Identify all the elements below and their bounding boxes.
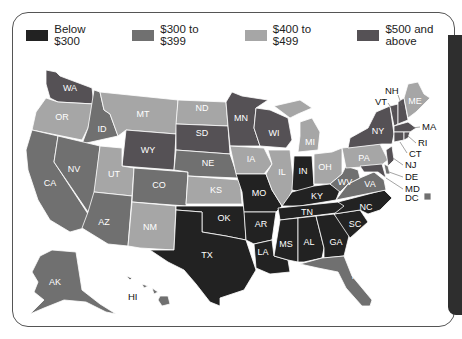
- svg-text:AR: AR: [255, 219, 268, 229]
- us-map: WA OR CA ID NV MT WY UT AZ CO NM ND SD N…: [0, 0, 462, 339]
- svg-text:KY: KY: [311, 191, 323, 201]
- svg-text:NY: NY: [372, 126, 385, 136]
- svg-text:CT: CT: [409, 148, 422, 159]
- svg-text:AL: AL: [303, 237, 314, 247]
- svg-text:MA: MA: [422, 121, 437, 132]
- svg-text:HI: HI: [128, 291, 138, 302]
- svg-text:TN: TN: [301, 207, 313, 217]
- state-ak[interactable]: [30, 250, 116, 314]
- svg-text:SC: SC: [349, 219, 362, 229]
- svg-text:UT: UT: [108, 169, 120, 179]
- svg-text:IA: IA: [247, 154, 256, 164]
- state-ct[interactable]: [394, 132, 404, 142]
- svg-text:VT: VT: [375, 96, 387, 107]
- svg-text:OR: OR: [55, 112, 69, 122]
- svg-text:CO: CO: [152, 180, 166, 190]
- svg-text:WI: WI: [269, 128, 280, 138]
- svg-text:NV: NV: [68, 164, 81, 174]
- svg-text:NE: NE: [202, 158, 215, 168]
- svg-text:OK: OK: [217, 213, 230, 223]
- svg-text:MO: MO: [252, 188, 267, 198]
- svg-text:NJ: NJ: [405, 159, 417, 170]
- svg-text:DE: DE: [405, 171, 418, 182]
- svg-text:TX: TX: [201, 250, 213, 260]
- svg-text:NC: NC: [360, 202, 373, 212]
- svg-text:NH: NH: [385, 85, 399, 96]
- svg-text:MT: MT: [137, 109, 150, 119]
- svg-text:AZ: AZ: [98, 217, 110, 227]
- svg-text:AK: AK: [49, 277, 61, 287]
- svg-text:ND: ND: [196, 103, 209, 113]
- state-de[interactable]: [384, 164, 390, 174]
- state-dc[interactable]: [424, 193, 431, 200]
- svg-text:FL: FL: [352, 271, 363, 281]
- svg-text:WV: WV: [338, 177, 353, 187]
- svg-text:IL: IL: [278, 167, 286, 177]
- svg-text:VA: VA: [364, 179, 375, 189]
- svg-text:OH: OH: [318, 162, 332, 172]
- svg-text:MS: MS: [279, 239, 293, 249]
- svg-text:DC: DC: [405, 192, 419, 203]
- svg-text:WA: WA: [63, 83, 77, 93]
- svg-text:RI: RI: [418, 137, 428, 148]
- svg-text:ID: ID: [98, 124, 108, 134]
- svg-text:WY: WY: [141, 145, 156, 155]
- svg-text:PA: PA: [358, 153, 369, 163]
- svg-text:MN: MN: [234, 113, 248, 123]
- svg-text:NM: NM: [143, 222, 157, 232]
- svg-text:IN: IN: [299, 166, 308, 176]
- svg-text:CA: CA: [44, 178, 57, 188]
- svg-text:LA: LA: [257, 247, 268, 257]
- svg-text:MI: MI: [305, 137, 315, 147]
- svg-text:KS: KS: [210, 185, 222, 195]
- state-nj[interactable]: [386, 146, 394, 166]
- state-ri[interactable]: [404, 132, 410, 140]
- svg-text:ME: ME: [408, 96, 422, 106]
- svg-text:SD: SD: [196, 128, 209, 138]
- state-fl[interactable]: [300, 256, 372, 306]
- svg-text:GA: GA: [329, 237, 342, 247]
